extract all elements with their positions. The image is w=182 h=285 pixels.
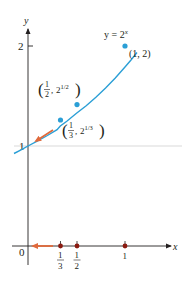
svg-text:(: ( (38, 80, 44, 99)
point-1-2 (122, 43, 127, 48)
svg-text:21/3: 21/3 (80, 124, 93, 136)
curve-approach-arrow (36, 130, 53, 141)
svg-text:3: 3 (69, 131, 73, 140)
svg-text:1: 1 (58, 250, 63, 260)
axis-point-1 (123, 244, 128, 249)
point-label-half: ( 1 2 , 21/2 ) (38, 80, 81, 99)
axis-point-third (58, 244, 63, 249)
svg-text:1: 1 (69, 121, 73, 130)
svg-text:(: ( (62, 121, 68, 140)
svg-text:1: 1 (75, 250, 80, 260)
y-axis-label: y (23, 15, 29, 26)
function-label: y = 2x (104, 28, 129, 40)
svg-text:,: , (75, 126, 77, 136)
origin-label: 0 (19, 246, 25, 258)
svg-text:): ) (75, 80, 81, 99)
exponential-graph-figure: 2 1 y x 0 y = 2x (1, 2) ( 1 2 , 21/2 ) (… (0, 0, 182, 285)
svg-text:21/2: 21/2 (56, 83, 69, 95)
svg-text:2: 2 (45, 90, 49, 99)
axis-point-half (75, 244, 80, 249)
point-label-third: ( 1 3 , 21/3 ) (62, 121, 105, 140)
svg-text:1: 1 (45, 80, 49, 89)
x-axis-label: x (172, 241, 178, 252)
svg-text:): ) (99, 121, 105, 140)
y-tick-label-2: 2 (18, 40, 24, 52)
svg-text:2: 2 (75, 261, 80, 271)
point-label-1-2: (1, 2) (129, 48, 151, 60)
svg-text:,: , (51, 85, 53, 95)
svg-text:3: 3 (58, 261, 63, 271)
x-tick-label-1: 1 (123, 251, 128, 261)
x-tick-label-third: 1 3 (57, 250, 64, 271)
x-tick-label-half: 1 2 (74, 250, 81, 271)
point-half (74, 102, 79, 107)
